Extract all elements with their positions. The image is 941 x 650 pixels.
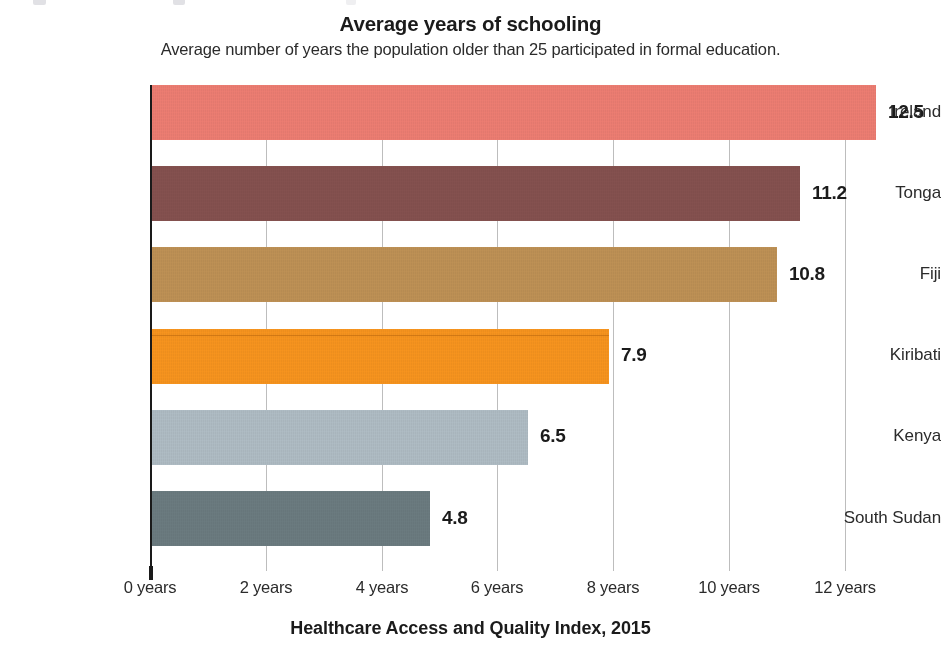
chart-page: Average years of schooling Average numbe… <box>0 0 941 650</box>
bar-kiribati[interactable] <box>152 329 609 384</box>
gridline-6-years <box>497 85 498 571</box>
category-label-tonga: Tonga <box>804 183 941 203</box>
bar-tonga[interactable] <box>152 166 800 221</box>
category-label-ireland: Ireland <box>804 102 941 122</box>
plot-area: 12.5Ireland11.2Tonga10.8Fiji7.9Kiribati6… <box>0 0 941 650</box>
bar-kenya[interactable] <box>152 410 528 465</box>
category-label-south-sudan: South Sudan <box>804 508 941 528</box>
bar-value-label-south-sudan: 4.8 <box>442 507 468 529</box>
category-label-kiribati: Kiribati <box>804 345 941 365</box>
gridline-8-years <box>613 85 614 571</box>
x-tick-label-10-years: 10 years <box>698 578 760 597</box>
bar-ireland[interactable] <box>152 85 876 140</box>
bar-fill <box>152 85 876 140</box>
category-label-kenya: Kenya <box>804 426 941 446</box>
bar-value-label-kiribati: 7.9 <box>621 344 647 366</box>
gridline-12-years <box>845 85 846 571</box>
x-tick-label-8-years: 8 years <box>587 578 640 597</box>
bar-fiji[interactable] <box>152 247 777 302</box>
bar-fill <box>152 247 777 302</box>
x-tick-label-4-years: 4 years <box>356 578 409 597</box>
bar-fill <box>152 166 800 221</box>
bar-fill <box>152 329 609 384</box>
x-tick-label-0-years: 0 years <box>124 578 177 597</box>
x-tick-label-6-years: 6 years <box>471 578 524 597</box>
category-label-fiji: Fiji <box>804 264 941 284</box>
gridline-10-years <box>729 85 730 571</box>
bar-fill <box>152 491 430 546</box>
bar-south-sudan[interactable] <box>152 491 430 546</box>
bar-value-label-kenya: 6.5 <box>540 425 566 447</box>
chart-footer-title: Healthcare Access and Quality Index, 201… <box>0 618 941 639</box>
bar-fill <box>152 410 528 465</box>
x-tick-label-12-years: 12 years <box>814 578 876 597</box>
x-tick-label-2-years: 2 years <box>240 578 293 597</box>
bar-seam-line <box>152 335 609 336</box>
